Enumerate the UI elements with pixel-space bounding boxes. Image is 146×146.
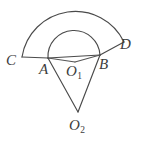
label-point-o2-subscript: 2 bbox=[80, 125, 85, 135]
label-point-o1: O1 bbox=[66, 64, 82, 79]
segment-A-O1 bbox=[48, 58, 75, 62]
label-point-o2: O2 bbox=[69, 118, 85, 133]
label-point-c: C bbox=[6, 53, 16, 68]
segment-C-A bbox=[22, 57, 48, 58]
label-point-d: D bbox=[120, 37, 131, 52]
label-point-o2-letter: O bbox=[69, 117, 80, 133]
label-point-b: B bbox=[99, 57, 108, 72]
label-point-o1-subscript: 1 bbox=[77, 71, 82, 81]
arc-A-B-inner bbox=[48, 30, 100, 58]
label-point-o1-letter: O bbox=[66, 63, 77, 79]
geometry-figure: C A O1 B D O2 bbox=[0, 0, 146, 146]
label-point-a: A bbox=[39, 62, 48, 77]
